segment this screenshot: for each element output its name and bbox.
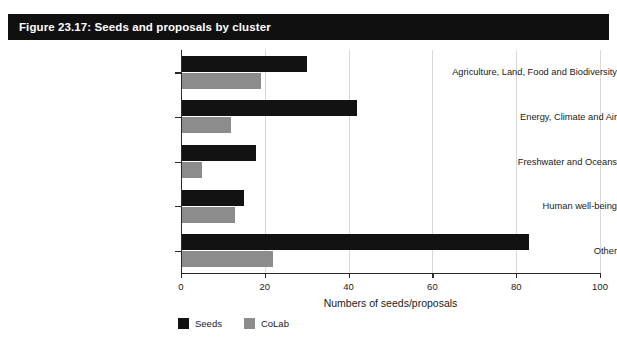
y-axis-tick: [175, 206, 181, 207]
bar-seeds: [181, 190, 244, 206]
x-axis-tick: [432, 273, 433, 278]
x-axis-tick-label: 60: [427, 281, 438, 292]
legend-swatch-icon: [178, 318, 189, 329]
bar-colab: [181, 162, 202, 178]
y-axis-tick-label: Other: [449, 246, 617, 256]
x-axis-tick-label: 100: [592, 281, 608, 292]
chart-legend: SeedsCoLab: [178, 318, 289, 329]
bar-colab: [181, 207, 235, 223]
bar-colab: [181, 73, 261, 89]
x-axis-tick: [349, 273, 350, 278]
legend-label: Seeds: [195, 318, 222, 329]
x-axis-tick-label: 80: [511, 281, 522, 292]
x-axis-tick: [181, 273, 182, 278]
y-axis-tick-label: Agriculture, Land, Food and Biodiversity: [449, 67, 617, 77]
y-axis-tick-label: Human well-being: [449, 201, 617, 211]
y-axis-line: [181, 50, 182, 273]
figure-title: Figure 23.17: Seeds and proposals by clu…: [8, 21, 271, 33]
figure-title-bar: Figure 23.17: Seeds and proposals by clu…: [8, 14, 609, 40]
figure-container: Figure 23.17: Seeds and proposals by clu…: [0, 0, 617, 340]
x-axis-line: [181, 273, 600, 274]
chart-plot-wrapper: Agriculture, Land, Food and Biodiversity…: [0, 45, 617, 340]
x-axis-tick: [265, 273, 266, 278]
legend-swatch-icon: [244, 318, 255, 329]
y-axis-tick-label: Energy, Climate and Air: [449, 112, 617, 122]
bar-seeds: [181, 100, 357, 116]
legend-item-seeds[interactable]: Seeds: [178, 318, 222, 329]
bar-seeds: [181, 56, 307, 72]
y-axis-tick: [175, 251, 181, 252]
y-axis-tick-label: Freshwater and Oceans: [449, 157, 617, 167]
bar-colab: [181, 251, 273, 267]
bar-colab: [181, 117, 231, 133]
bar-seeds: [181, 145, 256, 161]
x-axis-tick-label: 0: [178, 281, 183, 292]
y-axis-tick: [175, 117, 181, 118]
x-axis-tick-label: 40: [343, 281, 354, 292]
x-axis-title: Numbers of seeds/proposals: [181, 297, 600, 309]
y-axis-tick: [175, 72, 181, 73]
y-axis-tick: [175, 162, 181, 163]
x-axis-tick-label: 20: [260, 281, 271, 292]
x-axis-tick: [600, 273, 601, 278]
legend-item-colab[interactable]: CoLab: [244, 318, 289, 329]
legend-label: CoLab: [261, 318, 289, 329]
x-axis-tick: [516, 273, 517, 278]
